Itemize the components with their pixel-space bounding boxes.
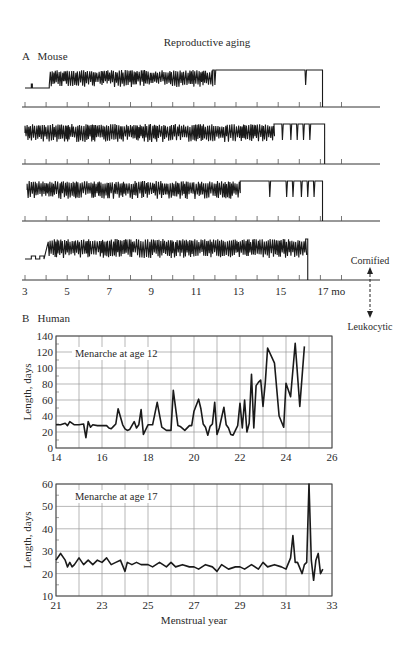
cornified-label: Cornified xyxy=(351,255,389,266)
x-tick-label: 29 xyxy=(235,599,247,611)
y-tick-label: 80 xyxy=(42,378,54,390)
x-tick-label: 20 xyxy=(189,451,201,463)
arrow-up-icon xyxy=(367,267,373,274)
arrow-down-icon xyxy=(367,311,373,318)
mouse-x-axis: 357911131517 mo xyxy=(22,285,346,297)
human-menarche-12-chart: 14161820222426020406080100120140Length, … xyxy=(21,330,338,463)
mouse-x-tick-label: 17 mo xyxy=(317,285,345,297)
figure-title: Reproductive aging xyxy=(164,36,251,48)
y-tick-label: 100 xyxy=(37,362,54,374)
mouse-trace-2 xyxy=(25,124,325,164)
x-tick-label: 22 xyxy=(235,451,246,463)
mouse-x-tick-label: 3 xyxy=(22,285,28,297)
panel-b-label: B Human xyxy=(22,312,70,324)
mouse-x-tick-label: 15 xyxy=(275,285,287,297)
mouse-trace-3 xyxy=(27,181,322,221)
x-tick-label: 33 xyxy=(327,599,339,611)
x-axis-label: Menstrual year xyxy=(161,614,228,626)
x-tick-label: 31 xyxy=(281,599,292,611)
mouse-trace-4 xyxy=(25,239,308,280)
x-tick-label: 26 xyxy=(327,451,339,463)
x-tick-label: 18 xyxy=(143,451,155,463)
y-tick-label: 0 xyxy=(48,442,54,454)
y-tick-label: 10 xyxy=(42,590,54,602)
y-axis-label: Length, days xyxy=(21,512,33,569)
y-tick-label: 140 xyxy=(37,330,54,342)
mouse-estrous-traces xyxy=(22,70,380,280)
y-tick-label: 20 xyxy=(42,568,54,580)
y-axis-label: Length, days xyxy=(21,364,33,421)
x-tick-label: 16 xyxy=(97,451,109,463)
y-tick-label: 120 xyxy=(37,346,54,358)
reproductive-aging-figure: Reproductive aging A Mouse 357911131517 … xyxy=(0,0,416,648)
y-tick-label: 20 xyxy=(42,426,54,438)
y-tick-label: 60 xyxy=(42,478,54,490)
y-tick-label: 40 xyxy=(42,523,54,535)
panel-a-label: A Mouse xyxy=(22,50,68,62)
mouse-x-tick-label: 9 xyxy=(149,285,155,297)
mouse-x-tick-label: 11 xyxy=(191,285,202,297)
y-tick-label: 50 xyxy=(42,500,54,512)
mouse-x-tick-label: 13 xyxy=(233,285,245,297)
mouse-trace-1 xyxy=(25,70,323,107)
x-tick-label: 25 xyxy=(143,599,155,611)
mouse-x-tick-label: 5 xyxy=(64,285,70,297)
mouse-x-tick-label: 7 xyxy=(106,285,112,297)
x-tick-label: 27 xyxy=(189,599,201,611)
x-tick-label: 24 xyxy=(281,451,293,463)
y-tick-label: 60 xyxy=(42,394,54,406)
y-tick-label: 30 xyxy=(42,545,54,557)
leukocytic-label: Leukocytic xyxy=(348,321,394,332)
human-menarche-17-chart: 21232527293133102030405060Length, daysMe… xyxy=(21,478,338,626)
y-tick-label: 40 xyxy=(42,410,54,422)
state-legend: Cornified Leukocytic xyxy=(348,255,394,332)
series-label: Menarche at age 12 xyxy=(75,348,158,359)
x-tick-label: 23 xyxy=(97,599,109,611)
series-label: Menarche at age 17 xyxy=(75,491,158,502)
